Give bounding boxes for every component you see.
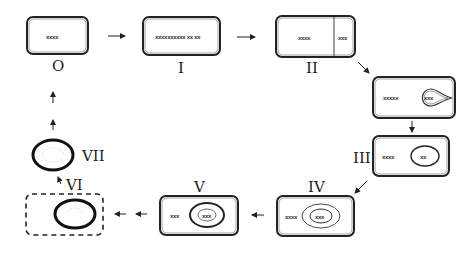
stage-3-box: xxxx xx (373, 136, 449, 176)
stage-0-box: xxxx (27, 17, 88, 54)
stage-4-numeral: IV (308, 178, 326, 196)
stage-2b-text: xxxxx (383, 95, 399, 101)
stage-4-box: xxxx xxx (277, 196, 354, 236)
arrow-3-4 (355, 181, 367, 193)
stage-2-text: xxxx (298, 35, 311, 41)
arrow-6-7 (58, 177, 61, 184)
stage-7-cell (33, 140, 73, 170)
stage-2-box: xxxx xxx (276, 16, 355, 57)
cycle-diagram: xxxx O xxxxxxxxxx xx xx I xxxx xxx II xx… (0, 0, 472, 254)
stage-5-box: xxx xxx (160, 196, 238, 235)
stage-2b-box: xxxxx xxx (373, 77, 455, 118)
stage-3-numeral: III (353, 149, 371, 167)
stage-0-numeral: O (52, 57, 64, 75)
stage-1-box: xxxxxxxxxx xx xx (143, 17, 220, 55)
stage-5-text: xxx (170, 213, 180, 219)
stage-6-box (26, 194, 103, 235)
stage-6-numeral: VI (65, 176, 83, 194)
stage-3-nucleus-text: xx (420, 154, 427, 160)
stage-1-numeral: I (178, 59, 184, 77)
stage-2b-nucleus-text: xxx (424, 95, 434, 101)
stage-5-nucleus-text: xxx (202, 213, 212, 219)
stage-3-text: xxxx (382, 154, 395, 160)
stage-1-text: xxxxxxxxxx xx xx (155, 34, 201, 40)
stage-0-text: xxxx (46, 34, 59, 40)
stage-2-side-text: xxx (338, 35, 348, 41)
stage-4-nucleus-text: xxx (315, 214, 325, 220)
stage-5-numeral: V (193, 178, 206, 196)
stage-2-numeral: II (306, 59, 318, 77)
stage-7-numeral: VII (81, 147, 105, 165)
stage-4-text: xxxx (285, 214, 298, 220)
arrow-2-2b (358, 62, 369, 73)
